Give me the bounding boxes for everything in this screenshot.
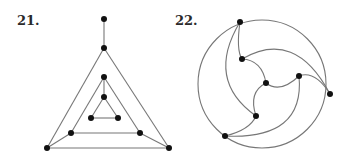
graph-diagrams [0,0,351,165]
node [101,94,107,100]
edge [226,22,256,116]
node [88,115,94,121]
node [101,74,107,80]
node [166,145,172,151]
edge [242,49,330,94]
edge [47,133,71,148]
outer-circle [198,20,326,148]
node [68,130,74,136]
edge [238,22,242,59]
node [101,16,107,22]
node [137,130,143,136]
edge [254,83,266,116]
node [115,115,121,121]
edge [266,76,299,87]
node [239,56,245,62]
node [327,91,333,97]
graph-22 [198,19,333,148]
node [237,19,243,25]
node [44,145,50,151]
edge [91,97,104,118]
edge [225,116,256,136]
node [253,113,259,119]
node [263,80,269,86]
edge [104,97,118,118]
node [101,45,107,51]
edge [242,59,266,83]
node [222,133,228,139]
node [296,73,302,79]
graph-21 [44,16,172,151]
